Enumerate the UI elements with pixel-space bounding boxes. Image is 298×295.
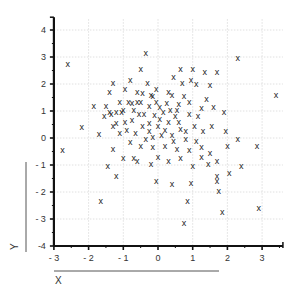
data-point-x-marker: x — [178, 64, 183, 74]
data-point-x-marker: x — [145, 78, 150, 88]
y-tick-label: 1 — [41, 106, 46, 116]
y-tick-label: 0 — [41, 133, 46, 143]
data-point-x-marker: x — [97, 129, 102, 139]
x-axis-title: X — [55, 275, 62, 286]
data-point-x-marker: x — [203, 67, 208, 77]
x-tick-label: - 3 — [49, 253, 60, 263]
data-point-x-marker: x — [147, 126, 152, 136]
data-point-x-marker: x — [118, 128, 123, 138]
data-point-x-marker: x — [225, 141, 230, 151]
data-point-x-marker: x — [184, 126, 189, 136]
grid-lines — [54, 19, 283, 246]
data-point-x-marker: x — [154, 176, 159, 186]
data-point-x-marker: x — [163, 141, 168, 151]
x-tick-label: - 2 — [83, 253, 94, 263]
data-point-x-marker: x — [130, 98, 135, 108]
data-point-x-marker: x — [79, 122, 84, 132]
data-point-x-marker: x — [199, 152, 204, 162]
data-point-x-marker: x — [121, 105, 126, 115]
y-tick-label: 4 — [41, 25, 46, 35]
data-point-x-marker: x — [177, 117, 182, 127]
data-point-x-marker: x — [130, 115, 135, 125]
data-point-x-marker: x — [206, 159, 211, 169]
y-axis-title: Y — [9, 243, 20, 250]
data-point-x-marker: x — [204, 94, 209, 104]
data-point-x-marker: x — [149, 159, 154, 169]
data-point-x-marker: x — [142, 109, 147, 119]
data-point-x-marker: x — [60, 145, 65, 155]
data-point-x-marker: x — [178, 153, 183, 163]
data-point-x-marker: x — [175, 105, 180, 115]
data-point-x-marker: x — [131, 153, 136, 163]
x-tick-label: 3 — [260, 253, 265, 263]
data-point-x-marker: x — [171, 72, 176, 82]
data-point-x-marker: x — [166, 156, 171, 166]
data-point-x-marker: x — [111, 144, 116, 154]
data-point-x-marker: x — [223, 126, 228, 136]
data-point-x-marker: x — [98, 196, 103, 206]
data-point-x-marker: x — [157, 114, 162, 124]
data-point-x-marker: x — [187, 109, 192, 119]
data-point-x-marker: x — [123, 84, 128, 94]
y-tick-label: 2 — [41, 79, 46, 89]
data-point-x-marker: x — [154, 84, 159, 94]
data-point-x-marker: x — [111, 78, 116, 88]
data-point-x-marker: x — [187, 97, 192, 107]
data-point-x-marker: x — [159, 130, 164, 140]
data-point-x-marker: x — [189, 178, 194, 188]
scatter-chart: xxxxxxxxxxxxxxxxxxxxxxxxxxxxxxxxxxxxxxxx… — [0, 0, 298, 295]
data-point-x-marker: x — [105, 161, 110, 171]
data-point-x-marker: x — [201, 126, 206, 136]
data-point-x-marker: x — [138, 64, 143, 74]
data-point-x-marker: x — [168, 105, 173, 115]
x-tick-label: 2 — [225, 253, 230, 263]
data-point-x-marker: x — [256, 203, 261, 213]
data-point-x-marker: x — [236, 53, 241, 63]
data-point-x-marker: x — [140, 88, 145, 98]
data-point-x-marker: x — [92, 101, 97, 111]
data-point-x-marker: x — [114, 171, 119, 181]
data-point-x-marker: x — [215, 156, 220, 166]
x-tick-label: 0 — [155, 253, 160, 263]
data-point-x-marker: x — [170, 179, 175, 189]
data-point-x-marker: x — [210, 121, 215, 131]
y-tick-label: -4 — [38, 241, 46, 251]
data-point-x-marker: x — [107, 87, 112, 97]
data-point-x-marker: x — [208, 80, 213, 90]
data-point-x-marker: x — [274, 90, 279, 100]
data-point-x-marker: x — [123, 117, 128, 127]
data-point-x-marker: x — [211, 102, 216, 112]
y-tick-label: - 1 — [35, 160, 46, 170]
data-point-x-marker: x — [216, 186, 221, 196]
data-point-x-marker: x — [194, 79, 199, 89]
y-tick-label: - 3 — [35, 214, 46, 224]
data-point-x-marker: x — [171, 136, 176, 146]
data-point-x-marker: x — [220, 207, 225, 217]
data-point-x-marker: x — [190, 161, 195, 171]
data-point-x-marker: x — [182, 218, 187, 228]
data-point-x-marker: x — [121, 153, 126, 163]
data-point-x-marker: x — [180, 78, 185, 88]
y-tick-label: - 2 — [35, 187, 46, 197]
data-point-x-marker: x — [128, 75, 133, 85]
data-point-x-marker: x — [133, 128, 138, 138]
data-point-x-marker: x — [255, 141, 260, 151]
data-point-x-marker: x — [151, 142, 156, 152]
data-point-x-marker: x — [140, 121, 145, 131]
data-point-x-marker: x — [236, 134, 241, 144]
data-point-x-marker: x — [192, 121, 197, 131]
data-point-x-marker: x — [222, 107, 227, 117]
data-point-x-marker: x — [138, 141, 143, 151]
data-point-x-marker: x — [128, 137, 133, 147]
data-point-x-marker: x — [187, 145, 192, 155]
data-point-x-marker: x — [66, 59, 71, 69]
data-point-x-marker: x — [185, 196, 190, 206]
x-tick-label: - 1 — [118, 253, 129, 263]
data-point-x-marker: x — [227, 168, 232, 178]
data-point-x-marker: x — [144, 48, 149, 58]
x-tick-label: 1 — [190, 253, 195, 263]
data-point-x-marker: x — [208, 148, 213, 158]
data-point-x-marker: x — [107, 107, 112, 117]
y-tick-label: 3 — [41, 52, 46, 62]
data-point-x-marker: x — [149, 90, 154, 100]
